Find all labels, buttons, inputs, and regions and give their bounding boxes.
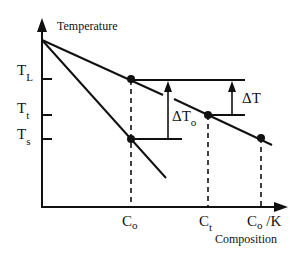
x-axis-label: Composition: [215, 233, 277, 245]
y-axis-label: Temperature: [57, 20, 117, 32]
delta-t-arrow: [228, 81, 236, 115]
delta-t0-arrow: [164, 81, 172, 139]
y-axis-arrow-icon: [37, 18, 47, 32]
delta-t-label: ΔT: [242, 91, 261, 106]
x-axis-arrow-icon: [274, 202, 288, 212]
tick-label-Co-over-K: Co /K: [247, 214, 281, 229]
delta-t0-label: ΔTo: [172, 109, 196, 124]
tick-label-Ct: Ct: [199, 214, 212, 229]
tick-label-TL: TL: [17, 63, 33, 78]
liquidus-line: [42, 40, 272, 145]
solidus-line: [42, 40, 166, 178]
tick-label-Co: Co: [122, 214, 138, 229]
y-ticks: [42, 79, 52, 139]
tick-label-Tt: Tt: [17, 101, 29, 116]
tick-label-Ts: Ts: [17, 127, 30, 142]
